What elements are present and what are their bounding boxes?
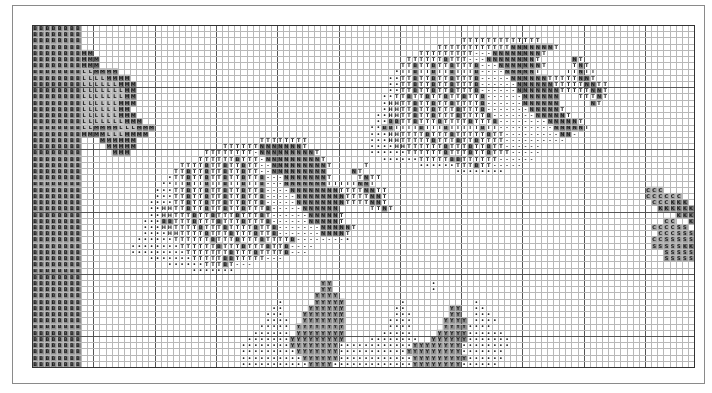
cross-stitch-grid	[32, 25, 695, 368]
pattern-canvas	[32, 25, 695, 368]
